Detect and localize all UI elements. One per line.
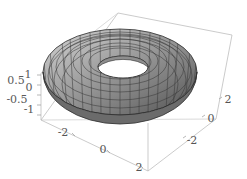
x-tick-label-neg2: -2 (58, 126, 69, 139)
z-tick-label-1: 1 (25, 68, 32, 81)
z-tick-label-neg1: -1 (24, 103, 35, 116)
y-tick-label-2: 2 (225, 93, 232, 106)
z-axis-tick-labels: 1 0.5 0 -0.5 -1 (6, 68, 34, 116)
y-tick-2 (219, 97, 222, 99)
plot-canvas: 1 0.5 0 -0.5 -1 -2 0 2 2 0 -2 (0, 0, 247, 179)
x-axis-tick-labels: -2 0 2 (58, 126, 143, 174)
z-tick-label-05: 0.5 (7, 74, 25, 87)
y-tick-label-neg2: -2 (187, 134, 198, 147)
y-tick-neg2 (183, 136, 186, 138)
y-tick-label-0: 0 (208, 112, 215, 125)
box-top-edge-front-right (216, 35, 232, 119)
torus-surface (43, 29, 197, 124)
box-bottom-edge-right (148, 119, 216, 171)
y-tick-0 (202, 115, 205, 117)
y-axis-tick-labels: 2 0 -2 (187, 93, 232, 147)
x-tick-label-0: 0 (100, 143, 107, 156)
torus-3d-plot: 1 0.5 0 -0.5 -1 -2 0 2 2 0 -2 (0, 0, 247, 179)
x-tick-label-2: 2 (136, 161, 143, 174)
